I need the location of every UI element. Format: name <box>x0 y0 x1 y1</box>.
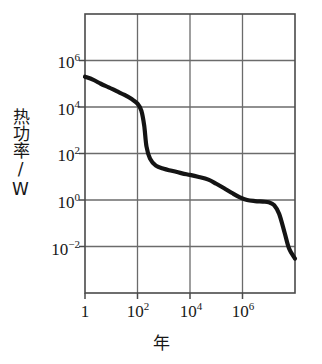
x-tick-label-1: 1 <box>69 303 101 320</box>
axis-tick-marks <box>79 61 243 300</box>
x-tick-label-1e4: 104 <box>171 303 211 320</box>
x-tick-label-1e6: 106 <box>223 303 263 320</box>
y-axis-title: 热功率/W <box>4 78 38 228</box>
y-tick-label-1e2: 102 <box>36 147 80 164</box>
chart-figure: 热功率/W 106 104 102 100 10−2 1 102 104 106… <box>0 0 322 364</box>
y-tick-label-1e4: 104 <box>36 101 80 118</box>
y-tick-label-1e0: 100 <box>36 194 80 211</box>
x-axis-title: 年 <box>0 329 322 354</box>
x-tick-label-1e2: 102 <box>118 303 158 320</box>
y-tick-label-1e6: 106 <box>36 54 80 71</box>
grid-lines <box>85 14 295 293</box>
y-tick-label-1e-2: 10−2 <box>30 241 80 258</box>
